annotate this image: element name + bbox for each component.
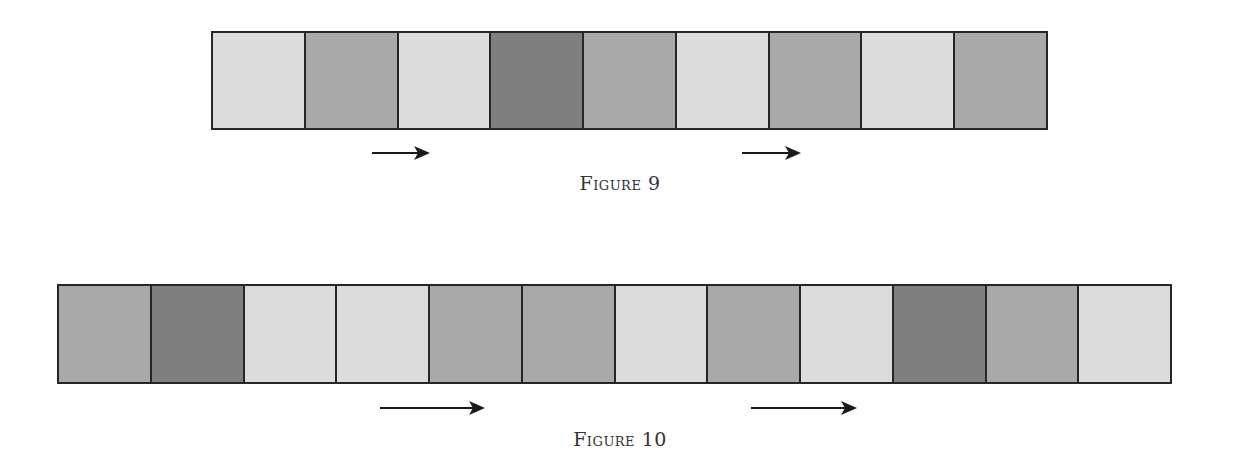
cell-light [801,286,894,382]
cell-light [1079,286,1170,382]
cell-mid [708,286,801,382]
cell-mid [306,33,399,128]
cell-light [399,33,492,128]
cell-mid [770,33,863,128]
cell-mid [59,286,152,382]
cell-dark [491,33,584,128]
right-arrow-icon [372,146,430,160]
cell-light [862,33,955,128]
figure-caption: Figure 9 [540,172,700,194]
cell-dark [152,286,245,382]
right-arrow-icon [751,401,857,415]
cell-dark [894,286,987,382]
cell-mid [523,286,616,382]
cell-mid [955,33,1046,128]
right-arrow-icon [380,401,485,415]
right-arrow-icon [742,146,801,160]
cell-light [245,286,338,382]
cell-light [616,286,709,382]
cell-light [677,33,770,128]
cell-mid [987,286,1080,382]
cell-mid [430,286,523,382]
cell-light [337,286,430,382]
cell-strip [211,31,1048,130]
figure-caption: Figure 10 [530,428,710,450]
cell-mid [584,33,677,128]
cell-light [213,33,306,128]
cell-strip [57,284,1172,384]
